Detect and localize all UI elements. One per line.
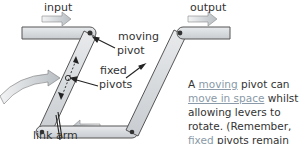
input-arrow-icon <box>42 12 71 26</box>
explanation-part: A <box>188 78 199 90</box>
input-label: input <box>44 1 72 14</box>
fixed-pivots-label-line2: pivots <box>99 78 132 91</box>
output-lever <box>177 27 230 39</box>
explanation-part: pivots remain <box>214 134 289 144</box>
link-arm-label: link arm <box>33 129 78 142</box>
output-label: output <box>190 1 226 14</box>
moving-pivot-icon <box>88 31 93 36</box>
explanation-part: pivot can <box>238 78 290 90</box>
force-arrow-icon <box>0 70 60 104</box>
pivot-icon <box>130 130 135 135</box>
linkage-diagram: input output moving pivot fixed pivots l… <box>0 0 308 144</box>
explanation-text: A moving pivot can move in space whilst … <box>188 77 308 144</box>
fixed-pivots-label-line1: fixed <box>100 64 127 77</box>
underlined-term: moving <box>199 78 238 90</box>
underlined-term: fixed <box>188 134 214 144</box>
underlined-term: move in space <box>188 92 264 104</box>
fixed-pivot-icon <box>178 31 183 36</box>
output-arrow-icon <box>188 12 217 26</box>
moving-pivot-label-line1: moving <box>118 30 159 43</box>
moving-pivot-label-line2: pivot <box>117 44 145 57</box>
